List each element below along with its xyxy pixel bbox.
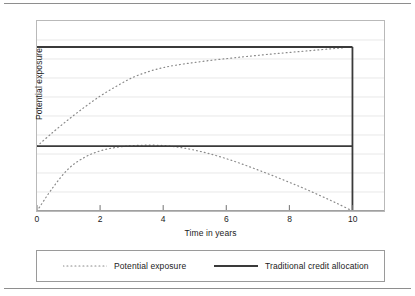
series-potential-exposure-lower: [37, 145, 352, 211]
legend-label-potential-exposure: Potential exposure: [114, 261, 186, 271]
x-tick-label-4: 4: [152, 214, 174, 224]
figure-bottom-rule: [4, 288, 411, 289]
x-tick-label-10: 10: [342, 214, 364, 224]
figure-top-rule: [4, 3, 411, 4]
legend-entry-traditional-credit-allocation: Traditional credit allocation: [214, 260, 369, 272]
dotted-line-swatch-icon: [63, 261, 107, 271]
x-axis-label: Time in years: [36, 228, 385, 238]
solid-line-swatch-icon: [214, 261, 258, 271]
legend: Potential exposure Traditional credit al…: [36, 250, 385, 282]
x-tick-label-0: 0: [26, 214, 48, 224]
gridlines-y: [37, 40, 384, 192]
x-tick-label-2: 2: [89, 214, 111, 224]
x-tick-label-6: 6: [215, 214, 237, 224]
plot-canvas: [37, 21, 384, 211]
legend-label-traditional-credit-allocation: Traditional credit allocation: [265, 261, 369, 271]
plot-frame: Potential exposure: [36, 20, 385, 212]
legend-entry-potential-exposure: Potential exposure: [63, 260, 186, 272]
y-axis-label: Potential exposure: [34, 29, 44, 139]
x-tick-label-8: 8: [279, 214, 301, 224]
